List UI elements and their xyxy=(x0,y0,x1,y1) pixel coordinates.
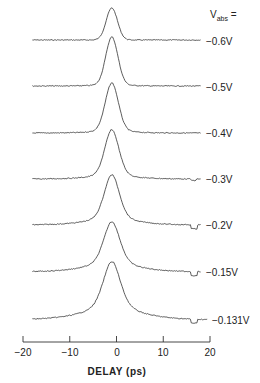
x-tick-label: −10 xyxy=(62,347,79,358)
x-axis xyxy=(23,336,210,342)
traces xyxy=(32,8,207,324)
x-tick-label: 10 xyxy=(157,347,168,358)
x-axis-label: DELAY (ps) xyxy=(88,366,147,377)
x-tick-label: 0 xyxy=(114,347,120,358)
trace--0.4V xyxy=(32,83,200,134)
trace-label-3: −0.3V xyxy=(206,174,232,185)
legend-header: Vabs = xyxy=(210,9,237,22)
trace-label-0: −0.6V xyxy=(206,36,232,47)
trace-label-4: −0.2V xyxy=(206,220,232,231)
trace--0.5V xyxy=(32,37,200,87)
trace--0.3V xyxy=(32,130,200,181)
trace-label-5: −0.15V xyxy=(206,267,238,278)
trace--0.2V xyxy=(32,175,200,230)
trace-label-2: −0.4V xyxy=(206,128,232,139)
x-tick-label: 20 xyxy=(204,347,215,358)
x-tick-label: −20 xyxy=(15,347,32,358)
trace--0.6V xyxy=(32,8,200,41)
trace-label-1: −0.5V xyxy=(206,82,232,93)
trace--0.15V xyxy=(32,222,200,276)
trace-label-6: −0.131V xyxy=(212,315,250,326)
